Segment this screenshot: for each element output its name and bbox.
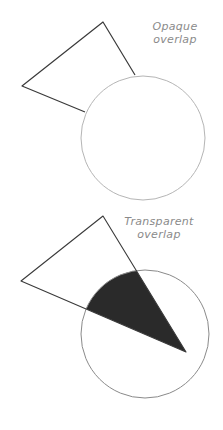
opaque-overlap-panel: Opaque overlap xyxy=(0,0,223,215)
label-line-1: Transparent xyxy=(114,215,204,228)
label-line-2: overlap xyxy=(140,33,210,46)
opaque-overlap-label: Opaque overlap xyxy=(140,20,210,46)
label-line-1: Opaque xyxy=(140,20,210,33)
transparent-overlap-label: Transparent overlap xyxy=(114,215,204,241)
circle-shape xyxy=(81,76,205,200)
transparent-overlap-diagram xyxy=(0,215,223,430)
transparent-overlap-panel: Transparent overlap xyxy=(0,215,223,430)
label-line-2: overlap xyxy=(114,228,204,241)
